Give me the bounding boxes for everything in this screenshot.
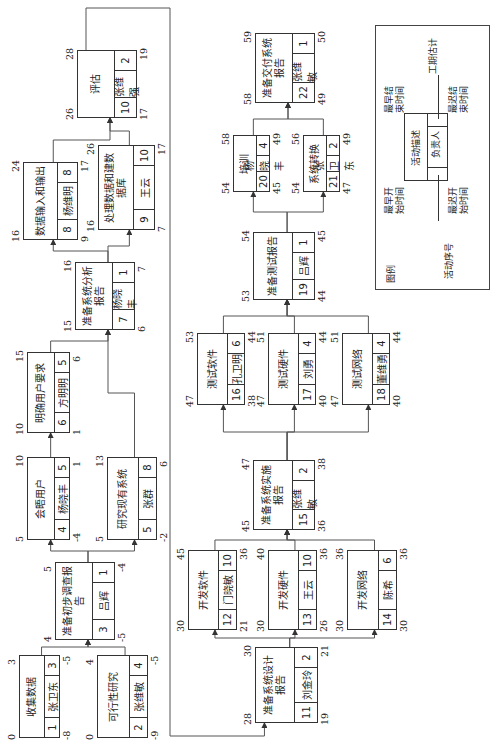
latest-start: 44 [317, 290, 327, 302]
latest-start: 21 [239, 620, 249, 632]
activity-info-strip: 1 张卫东 3 [44, 656, 59, 737]
latest-finish: 45 [317, 230, 327, 242]
activity-node: 开发网络 14 陈希 6 [347, 550, 397, 630]
dependency-arrow [287, 405, 368, 460]
activity-owner: 方明明 [55, 373, 69, 412]
earliest-finish: 4 [85, 659, 95, 665]
activity-node: 测试硬件 17 刘勇 4 [268, 333, 316, 405]
activity-node: 测试网络 18 董维勇 4 [342, 333, 390, 405]
earliest-finish: 24 [11, 160, 21, 172]
latest-finish: 36 [319, 548, 329, 560]
latest-start: 9 [80, 236, 90, 242]
latest-start: -2 [159, 533, 169, 542]
activity-number: 6 [55, 412, 69, 432]
activity-owner: 王云 [134, 166, 154, 209]
earliest-finish: 53 [185, 331, 195, 343]
latest-finish: 21 [320, 645, 330, 657]
activity-number: 10 [115, 97, 136, 117]
activity-node: 系统转换 21 张卫东 2 [303, 135, 340, 192]
activity-number: 22 [293, 82, 314, 102]
latest-finish: 7 [137, 266, 147, 272]
activity-number: 9 [134, 209, 154, 229]
latest-finish: 17 [157, 143, 167, 155]
activity-number: 2 [130, 717, 147, 737]
latest-start: 45 [272, 182, 282, 194]
activity-node: 评估 10 张维强 2 [77, 50, 137, 118]
earliest-finish: 54 [241, 230, 251, 242]
activity-description: 测试网络 [343, 334, 372, 404]
legend-latest-start: 最迟开始时间 [448, 180, 470, 214]
earliest-start: 0 [85, 734, 95, 740]
activity-description: 处理数据和建数据库 [99, 146, 133, 229]
activity-info-strip: 3 吕辉 1 [92, 563, 114, 639]
latest-start: 47 [342, 182, 352, 194]
earliest-start: 26 [65, 108, 75, 120]
activity-description: 开发硬件 [269, 551, 298, 629]
activity-node: 研究现有系统 5 张群 8 [107, 457, 157, 540]
latest-finish: 6 [72, 356, 82, 362]
earliest-start: 10 [15, 423, 25, 435]
activity-node: 会晤用户 4 杨晓丰 5 [27, 457, 70, 540]
activity-number: 1 [45, 717, 59, 737]
activity-description: 测试硬件 [269, 334, 298, 404]
latest-start: 40 [318, 395, 328, 407]
legend-sample-node: 活动描述 负责人 [404, 113, 448, 181]
dependency-arrow [287, 192, 323, 232]
activity-node: 测试软件 16 孔卫明 6 [197, 333, 245, 405]
activity-info-strip: 2 张维敏 4 [129, 656, 147, 737]
legend: 图例 活动序号 最早开始时间 最早结束时间 最迟开始时间 最迟结束时间 工期估计… [375, 25, 490, 290]
activity-duration: 2 [295, 648, 317, 668]
activity-description: 准备交付系统报告 [256, 34, 292, 102]
dependency-arrow [88, 640, 125, 655]
latest-start: 30 [399, 620, 409, 632]
earliest-start: 4 [43, 636, 53, 642]
activity-owner: 吕辉 [93, 583, 114, 619]
activity-info-strip: 10 张维强 2 [114, 51, 136, 117]
activity-owner: 王云 [299, 571, 316, 609]
activity-node: 数据输入和输出 8 杨维明 8 [23, 162, 78, 240]
earliest-finish: 28 [65, 48, 75, 60]
earliest-start: 47 [185, 395, 195, 407]
legend-activity-no: 活动序号 [444, 243, 455, 279]
dependency-arrow [287, 300, 368, 333]
activity-duration: 4 [130, 656, 147, 676]
earliest-start: 0 [7, 734, 17, 740]
latest-start: 7 [157, 226, 167, 232]
latest-finish: 36 [239, 548, 249, 560]
activity-description: 数据输入和输出 [24, 163, 57, 239]
activity-owner: 张维敏 [130, 676, 147, 717]
earliest-finish: 36 [335, 548, 345, 560]
activity-duration: 8 [139, 458, 156, 478]
activity-info-strip: 13 王云 10 [298, 551, 316, 629]
latest-finish: 36 [399, 548, 409, 560]
activity-owner: 张维敏 [293, 481, 314, 509]
latest-start: 1 [72, 429, 82, 435]
activity-info-strip: 6 方明明 5 [54, 353, 69, 432]
activity-number: 17 [299, 384, 315, 404]
activity-number: 4 [55, 519, 69, 539]
legend-description: 活动描述 [411, 130, 422, 166]
dependency-arrow [223, 405, 287, 460]
activity-owner: 张维敏 [293, 54, 314, 82]
latest-start: 26 [319, 620, 329, 632]
activity-info-strip: 8 杨维明 8 [57, 163, 77, 239]
activity-info-strip: 4 杨晓丰 5 [54, 458, 69, 539]
activity-node: 处理数据和建数据库 9 王云 10 [98, 145, 155, 230]
earliest-finish: 58 [221, 133, 231, 145]
activity-duration: 4 [257, 136, 269, 156]
dependency-arrow [108, 230, 129, 262]
activity-description: 收集数据 [20, 656, 44, 737]
earliest-start: 54 [221, 182, 231, 194]
activity-number: 15 [293, 509, 314, 529]
earliest-start: 5 [95, 536, 105, 542]
legend-earliest-finish: 最早结束时间 [384, 79, 406, 113]
latest-finish: 38 [317, 458, 327, 470]
activity-info-strip: 22 张维敏 1 [292, 34, 314, 102]
activity-node: 收集数据 1 张卫东 3 [19, 655, 60, 738]
activity-owner: 刘勇 [299, 354, 315, 384]
earliest-start: 30 [176, 620, 186, 632]
activity-info-strip: 14 陈希 6 [378, 551, 396, 629]
activity-number: 14 [379, 609, 396, 629]
dependency-arrow [290, 630, 375, 647]
latest-finish: 50 [317, 31, 327, 43]
